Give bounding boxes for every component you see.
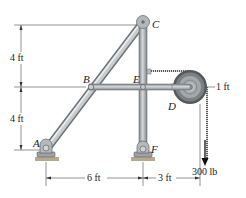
load-label: 300 lb [192, 166, 217, 177]
dim-pulley-radius: 1 ft [216, 81, 230, 92]
pulley-d [172, 70, 207, 104]
label-a: A [32, 137, 40, 149]
pin-b [88, 84, 94, 90]
label-e: E [132, 73, 140, 85]
pin-e [141, 85, 146, 90]
ground [35, 157, 155, 161]
dim-horizontal-right: 3 ft [158, 172, 172, 183]
pin-c [137, 16, 150, 29]
dim-vertical-lower: 4 ft [10, 113, 24, 124]
label-b: B [83, 73, 90, 85]
label-d: D [167, 100, 176, 112]
dim-horizontal-left: 6 ft [87, 172, 101, 183]
label-f: F [150, 143, 158, 155]
label-c: C [152, 18, 160, 30]
frame-diagram: C B E D A F 4 ft 4 ft 6 ft 3 ft 1 ft 300… [0, 0, 246, 198]
dimension-lines [14, 25, 215, 186]
support-f [134, 141, 152, 157]
dim-vertical-upper: 4 ft [10, 52, 24, 63]
